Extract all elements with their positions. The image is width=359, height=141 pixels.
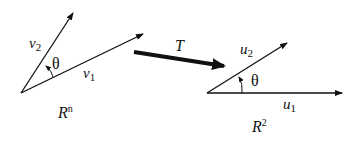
label-transformation: T bbox=[175, 38, 184, 54]
label-u1: u1 bbox=[283, 97, 296, 114]
label-u2: u2 bbox=[240, 42, 253, 59]
angle-label-right: θ bbox=[251, 73, 259, 89]
angle-label-left: θ bbox=[52, 56, 60, 72]
label-space-rn: Rn bbox=[58, 104, 73, 121]
angle-arc-right bbox=[239, 77, 242, 93]
transformation-arrow bbox=[134, 52, 224, 66]
linear-map-diagram: v2 θ v1 Rn T u2 θ u1 R2 bbox=[0, 0, 359, 141]
label-v1: v1 bbox=[83, 66, 95, 83]
label-v2: v2 bbox=[29, 36, 41, 53]
label-space-r2: R2 bbox=[252, 118, 267, 135]
